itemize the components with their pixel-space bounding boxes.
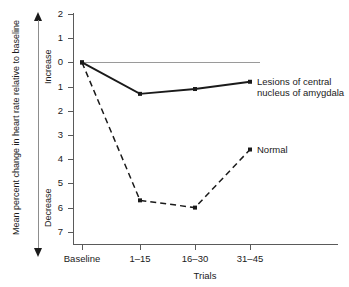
series-line-lesions [82, 62, 250, 93]
arrow-down-icon [34, 248, 42, 257]
plot-area: 2101234567 Baseline1–1516–3031–45 Trials [55, 8, 345, 260]
data-point-marker [248, 80, 252, 84]
data-point-marker [248, 148, 252, 152]
series-layer [55, 8, 345, 260]
data-point-marker [193, 206, 197, 210]
direction-axis-line [38, 20, 39, 249]
x-axis-title: Trials [194, 270, 217, 281]
data-point-marker [80, 60, 84, 64]
y-axis-title: Mean percent change in heart rate relati… [11, 8, 22, 248]
series-label-normal: Normal [257, 144, 288, 155]
chart-figure: Mean percent change in heart rate relati… [0, 0, 349, 287]
data-point-marker [138, 92, 142, 96]
y-axis-title-block: Mean percent change in heart rate relati… [0, 0, 26, 265]
series-label-lesions: Lesions of central nucleus of amygdala [257, 76, 349, 98]
data-point-marker [193, 87, 197, 91]
data-point-marker [138, 198, 142, 202]
